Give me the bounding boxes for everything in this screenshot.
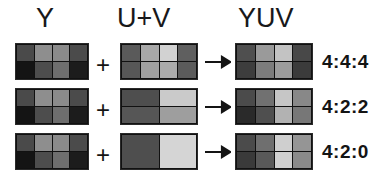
- grid-cell: [237, 90, 255, 106]
- chroma-grid: [120, 88, 198, 125]
- luma-grid: [15, 133, 89, 170]
- grid-cell: [53, 152, 70, 168]
- grid-cell: [256, 45, 274, 61]
- grid-cell: [293, 90, 311, 106]
- grid-cell: [256, 90, 274, 106]
- grid-cell: [17, 62, 34, 78]
- grid-cell: [256, 107, 274, 123]
- column-heading-combined: YUV: [238, 5, 294, 32]
- grid-cell: [293, 152, 311, 168]
- grid-cell: [17, 135, 34, 151]
- grid-cell: [70, 152, 87, 168]
- luma-grid: [15, 43, 89, 80]
- grid-cell: [35, 152, 52, 168]
- grid-cell: [122, 90, 159, 106]
- grid-cell: [256, 135, 274, 151]
- grid-cell: [293, 62, 311, 78]
- grid-cell: [70, 45, 87, 61]
- plus-operator: +: [96, 53, 110, 77]
- grid-cell: [53, 62, 70, 78]
- grid-cell: [53, 107, 70, 123]
- grid-cell: [293, 45, 311, 61]
- grid-cell: [237, 107, 255, 123]
- ratio-label-444: 4:4:4: [322, 52, 369, 71]
- chroma-grid: [120, 43, 198, 80]
- column-heading-chroma: U+V: [117, 5, 170, 32]
- grid-cell: [35, 90, 52, 106]
- arrow-right-icon: [205, 100, 231, 114]
- grid-cell: [70, 62, 87, 78]
- ratio-label-420: 4:2:0: [322, 142, 369, 161]
- grid-cell: [275, 135, 293, 151]
- arrow-right-icon: [205, 145, 231, 159]
- grid-cell: [17, 152, 34, 168]
- grid-cell: [53, 45, 70, 61]
- grid-cell: [122, 45, 140, 61]
- grid-cell: [122, 62, 140, 78]
- plus-operator: +: [96, 98, 110, 122]
- arrow-right-icon: [205, 55, 231, 69]
- grid-cell: [35, 107, 52, 123]
- ratio-label-422: 4:2:2: [322, 97, 369, 116]
- grid-cell: [122, 107, 159, 123]
- luma-grid: [15, 88, 89, 125]
- grid-cell: [53, 90, 70, 106]
- column-heading-luma: Y: [36, 5, 54, 32]
- yuv-subsampling-diagram: Y U+V YUV + 4:4:4 + 4:2:2 + 4:2:0: [0, 0, 381, 185]
- grid-cell: [237, 152, 255, 168]
- grid-cell: [275, 45, 293, 61]
- grid-cell: [293, 135, 311, 151]
- plus-operator: +: [96, 143, 110, 167]
- grid-cell: [160, 45, 178, 61]
- grid-cell: [275, 62, 293, 78]
- grid-cell: [178, 45, 196, 61]
- grid-cell: [237, 45, 255, 61]
- grid-cell: [275, 107, 293, 123]
- grid-cell: [141, 62, 159, 78]
- grid-cell: [256, 152, 274, 168]
- grid-cell: [293, 107, 311, 123]
- grid-cell: [53, 135, 70, 151]
- yuv-grid: [235, 43, 313, 80]
- grid-cell: [160, 135, 197, 168]
- grid-cell: [35, 62, 52, 78]
- grid-cell: [17, 90, 34, 106]
- grid-cell: [178, 62, 196, 78]
- grid-cell: [35, 45, 52, 61]
- yuv-grid: [235, 88, 313, 125]
- grid-cell: [70, 90, 87, 106]
- grid-cell: [141, 45, 159, 61]
- chroma-grid: [120, 133, 198, 170]
- grid-cell: [70, 135, 87, 151]
- grid-cell: [160, 90, 197, 106]
- grid-cell: [17, 45, 34, 61]
- grid-cell: [275, 152, 293, 168]
- grid-cell: [237, 62, 255, 78]
- grid-cell: [275, 90, 293, 106]
- yuv-grid: [235, 133, 313, 170]
- grid-cell: [160, 107, 197, 123]
- grid-cell: [122, 135, 159, 168]
- grid-cell: [70, 107, 87, 123]
- grid-cell: [256, 62, 274, 78]
- grid-cell: [237, 135, 255, 151]
- grid-cell: [17, 107, 34, 123]
- grid-cell: [35, 135, 52, 151]
- grid-cell: [160, 62, 178, 78]
